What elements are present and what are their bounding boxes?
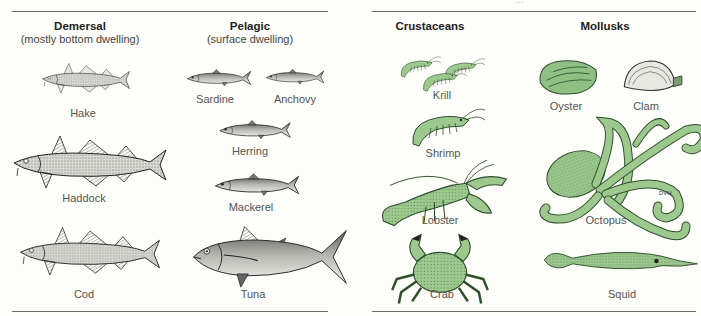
oyster-icon	[536, 54, 600, 98]
oyster-label: Oyster	[550, 100, 582, 112]
demersal-heading: Demersal (mostly bottom dwelling)	[20, 20, 140, 46]
pelagic-subtitle: (surface dwelling)	[195, 33, 305, 46]
mackerel-fish-icon	[203, 172, 311, 198]
octopus-label: Octopus	[586, 214, 627, 226]
finfish-panel: Demersal (mostly bottom dwelling) Pelagi…	[0, 0, 340, 316]
pelagic-heading: Pelagic (surface dwelling)	[195, 20, 305, 46]
squid-icon	[532, 247, 701, 275]
clipped-caption: …	[515, 0, 555, 5]
bottom-rule	[372, 311, 696, 312]
demersal-subtitle: (mostly bottom dwelling)	[20, 33, 140, 46]
cod-fish-icon	[10, 222, 170, 286]
squid-label: Squid	[608, 288, 636, 300]
krill-label: Krill	[433, 89, 451, 101]
anchovy-label: Anchovy	[274, 93, 316, 105]
crab-label: Crab	[430, 288, 454, 300]
tuna-fish-icon	[186, 223, 354, 289]
haddock-fish-icon	[10, 130, 170, 200]
crustaceans-heading: Crustaceans	[380, 20, 480, 33]
shellfish-panel: … Crustaceans Mollusks Krill Shrimp Lobs…	[360, 0, 701, 316]
crustaceans-title: Crustaceans	[380, 20, 480, 33]
sardine-fish-icon	[186, 68, 252, 88]
top-rule	[12, 11, 328, 12]
mackerel-label: Mackerel	[229, 201, 274, 213]
hake-label: Hake	[70, 107, 96, 119]
artist-signature: DVH	[659, 190, 672, 196]
bottom-rule	[12, 311, 328, 312]
haddock-label: Haddock	[62, 192, 105, 204]
clam-label: Clam	[633, 100, 659, 112]
sardine-label: Sardine	[196, 93, 234, 105]
mollusks-heading: Mollusks	[560, 20, 650, 33]
shrimp-label: Shrimp	[426, 147, 461, 159]
top-rule	[372, 11, 696, 12]
anchovy-fish-icon	[261, 68, 329, 86]
pelagic-title: Pelagic	[195, 20, 305, 33]
krill-icon	[398, 52, 508, 100]
herring-fish-icon	[213, 119, 297, 141]
clam-icon	[620, 54, 684, 98]
herring-label: Herring	[232, 145, 268, 157]
lobster-label: Lobster	[422, 214, 459, 226]
hake-fish-icon	[20, 60, 152, 100]
cod-label: Cod	[74, 288, 94, 300]
mollusks-title: Mollusks	[560, 20, 650, 33]
demersal-title: Demersal	[20, 20, 140, 33]
tuna-label: Tuna	[241, 288, 266, 300]
